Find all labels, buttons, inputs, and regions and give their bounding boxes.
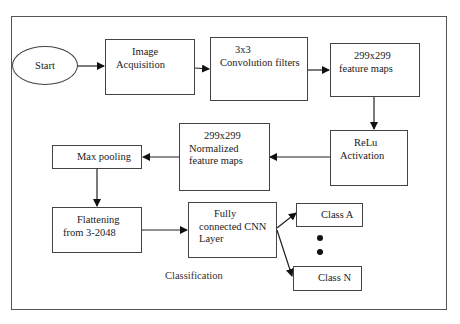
relu-activation-node: ReLu Activation xyxy=(330,130,408,186)
image-acquisition-node: Image Acquisition xyxy=(105,39,195,95)
flattening-node: Flattening from 3-2048 xyxy=(52,207,142,253)
max-pooling-node: Max pooling xyxy=(52,145,142,169)
node-line: Acquisition xyxy=(106,59,194,72)
node-line: from 3-2048 xyxy=(53,227,141,240)
classification-label: Classification xyxy=(165,270,223,281)
start-label: Start xyxy=(35,60,55,71)
node-line: Flattening xyxy=(53,214,141,227)
node-line: Max pooling xyxy=(77,151,141,164)
node-line: Activation xyxy=(331,150,407,163)
node-line: Normalized xyxy=(180,143,269,156)
start-node: Start xyxy=(12,46,78,85)
ellipsis-dot xyxy=(317,249,323,255)
node-line: 3x3 xyxy=(211,44,307,57)
node-line: feature maps xyxy=(331,63,419,76)
normalized-feature-maps-node: 299x299 Normalized feature maps xyxy=(179,123,270,191)
node-line: Class N xyxy=(318,272,361,285)
node-line: 299x299 xyxy=(180,130,269,143)
convolution-filters-node: 3x3 Convolution filters xyxy=(210,37,308,101)
class-a-node: Class A xyxy=(296,203,363,227)
node-line: 299x299 xyxy=(331,50,419,63)
class-n-node: Class N xyxy=(293,266,362,291)
node-line: ReLu xyxy=(331,137,407,150)
fully-connected-node: Fully connected CNN Layer xyxy=(188,202,277,258)
node-line: Class A xyxy=(321,209,362,222)
node-line: Convolution filters xyxy=(211,57,307,70)
node-line: feature maps xyxy=(180,155,269,168)
feature-maps-node: 299x299 feature maps xyxy=(330,43,420,97)
ellipsis-dot xyxy=(317,235,323,241)
node-line: connected CNN xyxy=(189,221,276,234)
node-line: Image xyxy=(106,46,194,59)
node-line: Fully xyxy=(189,208,276,221)
node-line: Layer xyxy=(189,233,276,246)
